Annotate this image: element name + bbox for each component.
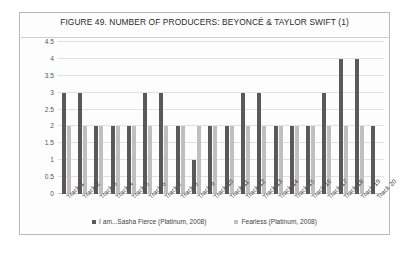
bar-group bbox=[123, 42, 139, 194]
y-axis-tick-label: 3.5 bbox=[45, 71, 54, 78]
bar-group bbox=[91, 42, 107, 194]
chart-title: FIGURE 49. NUMBER OF PRODUCERS: BEYONCÉ … bbox=[20, 17, 389, 27]
bar-group bbox=[302, 42, 318, 194]
legend-item[interactable]: Fearless (Platinum, 2008) bbox=[234, 218, 317, 225]
y-axis-tick-label: 2 bbox=[50, 122, 54, 129]
legend-label: I am...Sasha Fierce (Platinum, 2008) bbox=[99, 218, 206, 225]
figure-container: FIGURE 49. NUMBER OF PRODUCERS: BEYONCÉ … bbox=[19, 12, 390, 235]
bar-group bbox=[286, 42, 302, 194]
y-axis-tick-label: 1.5 bbox=[45, 139, 54, 146]
bar bbox=[143, 93, 147, 194]
bar-group bbox=[107, 42, 123, 194]
bar-group bbox=[74, 42, 90, 194]
y-axis-tick-label: 4.5 bbox=[45, 38, 54, 45]
bar-group bbox=[254, 42, 270, 194]
bar-group bbox=[156, 42, 172, 194]
title-divider bbox=[21, 37, 390, 38]
y-axis-tick-label: 3 bbox=[50, 88, 54, 95]
plot-area: 00.511.522.533.544.5 bbox=[58, 42, 384, 194]
y-axis-tick-label: 0 bbox=[50, 190, 54, 197]
bar-series-container bbox=[58, 42, 384, 194]
y-axis-tick-label: 2.5 bbox=[45, 105, 54, 112]
y-axis-tick-label: 4 bbox=[50, 54, 54, 61]
bar bbox=[62, 93, 66, 194]
bar bbox=[67, 126, 71, 194]
legend-swatch-icon bbox=[92, 220, 96, 224]
x-axis-labels: Track 1Track 2Track 3Track 4Track 5Track… bbox=[58, 195, 384, 231]
bar-group bbox=[351, 42, 367, 194]
legend-item[interactable]: I am...Sasha Fierce (Platinum, 2008) bbox=[92, 218, 206, 225]
bar-group bbox=[270, 42, 286, 194]
bar-group bbox=[139, 42, 155, 194]
bar-group bbox=[58, 42, 74, 194]
bar-group bbox=[221, 42, 237, 194]
bar-group bbox=[335, 42, 351, 194]
bar-group bbox=[188, 42, 204, 194]
bar bbox=[78, 93, 82, 194]
bar-group bbox=[319, 42, 335, 194]
bar bbox=[339, 59, 343, 194]
bar-group bbox=[172, 42, 188, 194]
chart-legend: I am...Sasha Fierce (Platinum, 2008)Fear… bbox=[20, 218, 389, 225]
bar-group bbox=[237, 42, 253, 194]
bar bbox=[355, 59, 359, 194]
legend-label: Fearless (Platinum, 2008) bbox=[241, 218, 317, 225]
y-axis-tick-label: 1 bbox=[50, 156, 54, 163]
legend-swatch-icon bbox=[234, 220, 238, 224]
bar-group bbox=[368, 42, 384, 194]
bar-group bbox=[205, 42, 221, 194]
y-axis-tick-label: 0.5 bbox=[45, 173, 54, 180]
